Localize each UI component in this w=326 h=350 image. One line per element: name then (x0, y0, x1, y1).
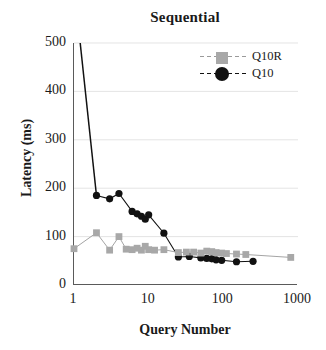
x-tick-label: 1 (50, 292, 96, 306)
data-point-marker (242, 251, 249, 258)
data-point-marker (93, 229, 100, 236)
data-point-marker (160, 230, 167, 237)
data-point-marker (233, 258, 240, 265)
legend-item-q10: Q10 (200, 65, 292, 82)
data-point-marker (115, 190, 122, 197)
legend-label: Q10 (246, 66, 274, 81)
data-point-marker (287, 254, 294, 261)
data-point-marker (218, 257, 225, 264)
data-point-marker (71, 245, 78, 252)
data-point-marker (145, 211, 152, 218)
data-point-marker (190, 249, 197, 256)
data-point-marker (249, 258, 256, 265)
data-point-marker (183, 249, 190, 256)
y-tick-label: 200 (8, 180, 66, 194)
x-tick-label: 10 (125, 292, 171, 306)
data-point-marker (151, 247, 158, 254)
data-point-marker (116, 233, 123, 240)
data-point-marker (93, 192, 100, 199)
data-point-marker (175, 249, 182, 256)
y-tick-label: 400 (8, 83, 66, 97)
y-tick-label: 300 (8, 132, 66, 146)
y-tick-label: 100 (8, 229, 66, 243)
series-line-offscale (80, 43, 96, 195)
x-tick-label: 1000 (274, 292, 320, 306)
data-point-marker (161, 246, 168, 253)
legend-item-q10r: Q10R (200, 48, 292, 65)
data-point-marker (233, 251, 240, 258)
chart-figure: Sequential Latency (ms) 0 100 200 300 40… (0, 0, 326, 350)
legend-marker-square-icon (200, 50, 246, 64)
data-point-marker (197, 250, 204, 257)
data-point-marker (123, 246, 130, 253)
chart-legend: Q10R Q10 (200, 48, 292, 82)
data-point-marker (223, 250, 230, 257)
legend-label: Q10R (246, 49, 282, 64)
x-tick-label: 100 (199, 292, 245, 306)
x-axis-title: Query Number (73, 322, 297, 338)
data-point-marker (145, 246, 152, 253)
y-tick-label: 0 (8, 277, 66, 291)
data-point-marker (106, 247, 113, 254)
y-tick-label: 500 (8, 35, 66, 49)
data-point-marker (106, 195, 113, 202)
legend-marker-circle-icon (200, 67, 246, 81)
